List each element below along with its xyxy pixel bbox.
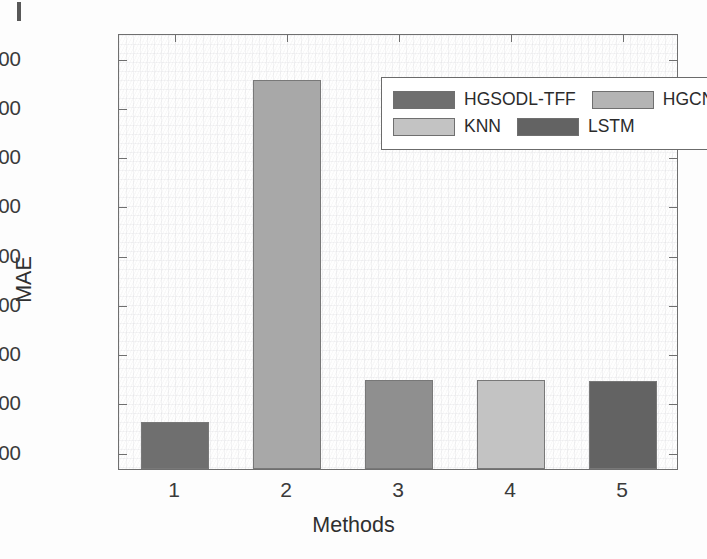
- x-tick-label: 2: [246, 478, 326, 502]
- legend-label: HGSODL-TFF: [464, 89, 576, 110]
- y-tick: [119, 257, 127, 258]
- y-tick: [119, 109, 127, 110]
- x-tick-label: 4: [470, 478, 550, 502]
- x-tick-top: [623, 35, 624, 42]
- y-tick: [119, 454, 127, 455]
- y-tick-label: 900: [0, 96, 21, 120]
- legend-swatch: [517, 118, 579, 136]
- y-tick-right: [669, 60, 677, 61]
- y-tick: [119, 355, 127, 356]
- y-tick: [119, 404, 127, 405]
- legend-swatch: [393, 118, 455, 136]
- y-tick-right: [669, 404, 677, 405]
- legend-entry-hgcn: HGCN: [592, 89, 707, 110]
- legend-entry-knn: KNN: [393, 116, 501, 137]
- bar-2: [253, 80, 321, 469]
- x-tick-label: 1: [134, 478, 214, 502]
- y-tick-label: 600: [0, 244, 21, 268]
- y-tick-label: 300: [0, 391, 21, 415]
- bar-5: [589, 381, 657, 469]
- plot-area: HGSODL-TFFHGCNGBRT KNNLSTM: [118, 34, 678, 470]
- x-tick-top: [511, 35, 512, 42]
- y-tick-label: 500: [0, 293, 21, 317]
- figure-container: MAE HGSODL-TFFHGCNGBRT KNNLSTM 200300400…: [0, 0, 707, 559]
- x-tick-top: [287, 35, 288, 42]
- y-tick-label: 700: [0, 194, 21, 218]
- y-tick-label: 1000: [0, 47, 21, 71]
- legend-swatch: [393, 91, 455, 109]
- legend-entry-lstm: LSTM: [517, 116, 635, 137]
- x-axis-title: Methods: [0, 513, 707, 538]
- x-tick-label: 3: [358, 478, 438, 502]
- y-tick-label: 200: [0, 441, 21, 465]
- legend-label: HGCN: [663, 89, 707, 110]
- y-tick: [119, 158, 127, 159]
- x-tick-top: [175, 35, 176, 42]
- y-axis-title: MAE: [0, 0, 54, 559]
- y-tick-right: [669, 158, 677, 159]
- legend-swatch: [592, 91, 654, 109]
- y-tick-right: [669, 454, 677, 455]
- legend-entry-hgsodl-tff: HGSODL-TFF: [393, 89, 576, 110]
- legend-row-top: HGSODL-TFFHGCNGBRT: [393, 86, 707, 113]
- x-tick-label: 5: [582, 478, 662, 502]
- y-tick: [119, 306, 127, 307]
- legend-label: LSTM: [588, 116, 635, 137]
- y-tick-label: 400: [0, 342, 21, 366]
- legend-row-bottom: KNNLSTM: [393, 113, 707, 140]
- y-tick: [119, 60, 127, 61]
- y-tick: [119, 207, 127, 208]
- bar-4: [477, 380, 545, 469]
- legend-label: KNN: [464, 116, 501, 137]
- y-tick-right: [669, 257, 677, 258]
- bar-3: [365, 380, 433, 469]
- legend-box: HGSODL-TFFHGCNGBRT KNNLSTM: [381, 77, 707, 150]
- x-tick-top: [399, 35, 400, 42]
- y-tick-right: [669, 355, 677, 356]
- y-tick-right: [669, 207, 677, 208]
- y-tick-right: [669, 306, 677, 307]
- y-tick-label: 800: [0, 145, 21, 169]
- bar-1: [141, 422, 209, 469]
